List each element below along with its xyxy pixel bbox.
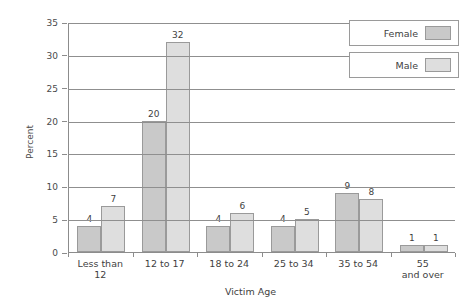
y-axis-title: Percent xyxy=(25,102,35,182)
y-tick-mark xyxy=(62,220,67,221)
x-tick-mark xyxy=(262,253,263,257)
y-tick-label: 35 xyxy=(30,18,58,28)
bar-value-label: 5 xyxy=(292,208,322,217)
legend-item-male[interactable]: Male xyxy=(349,52,459,78)
y-tick-label: 20 xyxy=(30,117,58,127)
x-tick-mark xyxy=(391,253,392,257)
legend-swatch-male xyxy=(425,58,451,72)
y-tick-label: 0 xyxy=(30,248,58,258)
bar-male-3[interactable] xyxy=(295,219,319,252)
y-tick-mark xyxy=(62,121,67,122)
bar-male-0[interactable] xyxy=(101,206,125,252)
y-tick-label: 15 xyxy=(30,149,58,159)
legend-swatch-female xyxy=(425,26,451,40)
bar-female-0[interactable] xyxy=(77,226,101,252)
bar-value-label: 32 xyxy=(163,31,193,40)
bar-value-label: 1 xyxy=(421,234,451,243)
gridline xyxy=(68,122,455,123)
y-tick-mark xyxy=(62,55,67,56)
legend-item-female[interactable]: Female xyxy=(349,20,459,46)
bar-female-3[interactable] xyxy=(271,226,295,252)
bar-value-label: 6 xyxy=(227,202,257,211)
bar-male-2[interactable] xyxy=(230,213,254,252)
gridline xyxy=(68,154,455,155)
y-tick-mark xyxy=(62,253,67,254)
y-tick-label: 30 xyxy=(30,51,58,61)
legend-label-male: Male xyxy=(395,60,418,71)
x-category-label-line: 55 xyxy=(378,258,468,269)
y-tick-mark xyxy=(62,187,67,188)
y-tick-label: 5 xyxy=(30,215,58,225)
bar-value-label: 7 xyxy=(98,195,128,204)
y-tick-mark xyxy=(62,23,67,24)
legend-label-female: Female xyxy=(384,28,418,39)
bar-chart: Percent 47203246459811 05101520253035 Le… xyxy=(0,0,473,305)
bar-female-5[interactable] xyxy=(400,245,424,252)
bar-female-4[interactable] xyxy=(335,193,359,252)
gridline xyxy=(68,220,455,221)
y-tick-mark xyxy=(62,88,67,89)
y-tick-label: 10 xyxy=(30,182,58,192)
x-tick-mark xyxy=(68,253,69,257)
y-tick-label: 25 xyxy=(30,84,58,94)
gridline xyxy=(68,89,455,90)
x-category-5: 55and over xyxy=(378,258,468,280)
x-tick-mark xyxy=(326,253,327,257)
x-category-label-line: and over xyxy=(378,269,468,280)
bar-female-1[interactable] xyxy=(142,121,166,252)
x-tick-mark xyxy=(133,253,134,257)
bar-male-4[interactable] xyxy=(359,199,383,252)
x-tick-mark xyxy=(455,253,456,257)
x-tick-mark xyxy=(197,253,198,257)
bar-value-label: 20 xyxy=(139,110,169,119)
x-axis-title-text: Victim Age xyxy=(225,286,276,297)
bar-male-5[interactable] xyxy=(424,245,448,252)
x-axis-title: Victim Age xyxy=(0,286,473,297)
gridline xyxy=(68,187,455,188)
x-category-label-line: 12 xyxy=(55,269,145,280)
y-tick-mark xyxy=(62,154,67,155)
bar-value-label: 8 xyxy=(356,188,386,197)
bar-female-2[interactable] xyxy=(206,226,230,252)
